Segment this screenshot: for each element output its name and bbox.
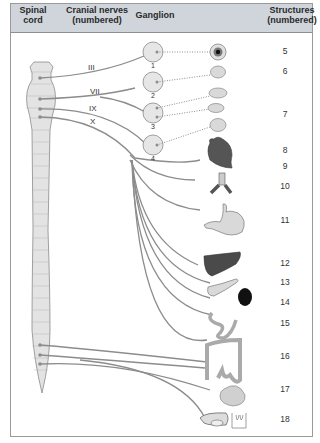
structure-number: 8 <box>275 145 295 155</box>
lacrimal-gland-icon <box>211 66 226 78</box>
postganglionic-fibers <box>157 52 210 145</box>
structure-number: 13 <box>275 277 295 287</box>
structure-number: 12 <box>275 258 295 268</box>
cranial-nerve-label-iii: III <box>88 63 95 72</box>
structure-number: 14 <box>275 297 295 307</box>
structure-number: 15 <box>275 318 295 328</box>
large-intestine-icon <box>207 340 240 382</box>
structure-number: 18 <box>275 414 295 424</box>
ganglion-number-3: 3 <box>148 123 158 130</box>
structure-number: 9 <box>275 161 295 171</box>
structure-number: 6 <box>275 66 295 76</box>
salivary-gland-icon <box>209 88 227 98</box>
eye-icon <box>210 44 226 60</box>
cranial-nerve-paths <box>40 56 212 418</box>
structure-number: 17 <box>275 384 295 394</box>
structure-number: 10 <box>275 181 295 191</box>
structure-number: 7 <box>275 109 295 119</box>
ganglion-number-2: 2 <box>148 92 158 99</box>
ganglion-number-4: 4 <box>148 155 158 162</box>
stomach-icon <box>204 204 244 235</box>
spinal-cord <box>26 62 56 393</box>
salivary-gland-icon <box>210 119 226 132</box>
cranial-nerve-label-x: X <box>90 117 95 126</box>
diagram-svg <box>0 0 320 443</box>
bladder-icon <box>220 386 245 406</box>
cranial-nerve-label-vii: VII <box>90 87 100 96</box>
liver-icon <box>204 252 241 276</box>
reproductive-organs-icon <box>200 413 246 428</box>
pancreas-icon <box>208 279 238 296</box>
cranial-nerve-label-ix: IX <box>89 104 97 113</box>
structure-number: 11 <box>275 215 295 225</box>
bronchi-icon <box>211 173 231 193</box>
structure-number: 5 <box>275 46 295 56</box>
heart-icon <box>208 137 232 168</box>
ganglion-number-1: 1 <box>148 62 158 69</box>
kidney-icon <box>238 288 252 306</box>
salivary-gland-icon <box>208 104 224 113</box>
structure-number: 16 <box>275 351 295 361</box>
small-intestine-icon <box>210 313 236 338</box>
